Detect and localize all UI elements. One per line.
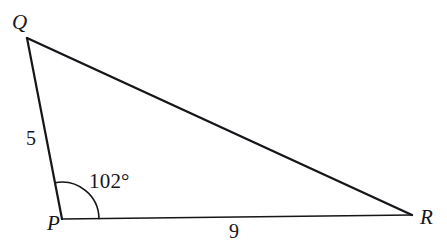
side-pr-line [62, 215, 412, 219]
vertex-label-r: R [420, 207, 433, 228]
triangle-figure: Q P R 5 9 102° [0, 0, 447, 250]
side-qr-line [27, 38, 412, 215]
angle-measure-label-p: 102° [89, 171, 130, 192]
vertex-label-p: P [47, 213, 60, 234]
side-length-label-pr: 9 [229, 221, 239, 241]
triangle-drawing [0, 0, 447, 250]
vertex-label-q: Q [12, 12, 27, 33]
side-length-label-pq: 5 [26, 128, 36, 148]
